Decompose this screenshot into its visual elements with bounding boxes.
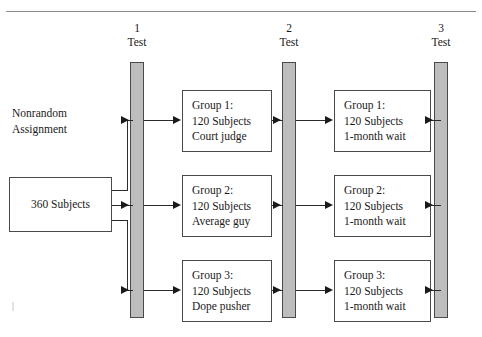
group-box-text: Group 2:120 SubjectsAverage guy (192, 183, 251, 230)
group-line-1: Group 1: (344, 99, 385, 111)
group-line-3: 1-month wait (344, 300, 406, 312)
group-line-1: Group 3: (192, 269, 233, 281)
column-label: Test (107, 36, 167, 50)
link-test2-to-group2 (296, 205, 326, 206)
column-label: Test (411, 36, 471, 50)
group-box-stage1-2: Group 2:120 SubjectsAverage guy (182, 175, 272, 237)
diagram-canvas: 1 Test 2 Test 3 Test Nonrandom Assignmen… (0, 0, 482, 337)
group-line-2: 120 Subjects (344, 285, 403, 297)
branch-riser-top (127, 120, 128, 191)
group-line-2: 120 Subjects (344, 200, 403, 212)
arrow-into-test3-group3 (425, 286, 433, 294)
link-test2-to-group1 (296, 120, 326, 121)
branch-stub-bottom (112, 220, 127, 221)
group-box-text: Group 1:120 Subjects1-month wait (344, 98, 406, 145)
arrow-into-group1-stage1 (173, 116, 181, 124)
group-box-text: Group 1:120 SubjectsCourt judge (192, 98, 251, 145)
arrow-into-test3-group1 (425, 116, 433, 124)
test-bar-3 (434, 62, 448, 318)
group-line-2: 120 Subjects (192, 115, 251, 127)
branch-riser-bottom (127, 220, 128, 291)
group-box-text: Group 3:120 SubjectsDope pusher (192, 268, 251, 315)
group-box-stage2-1: Group 1:120 Subjects1-month wait (334, 90, 431, 152)
arrow-into-group3-stage1 (173, 286, 181, 294)
link-test1-to-group2 (144, 205, 174, 206)
group-line-1: Group 2: (344, 184, 385, 196)
group-line-1: Group 1: (192, 99, 233, 111)
group-line-2: 120 Subjects (192, 200, 251, 212)
arrow-to-test1-group1 (121, 116, 129, 124)
nonrandom-assignment-label: Nonrandom Assignment (12, 106, 67, 137)
group-line-3: Dope pusher (192, 300, 250, 312)
subjects-box-text: 360 Subjects (10, 178, 111, 231)
column-number: 2 (259, 22, 319, 36)
column-header-2: 2 Test (259, 22, 319, 49)
group-line-1: Group 3: (344, 269, 385, 281)
test-bar-1 (130, 62, 144, 318)
top-horizontal-rule (6, 11, 476, 12)
group-line-3: 1-month wait (344, 130, 406, 142)
column-header-3: 3 Test (411, 22, 471, 49)
arrow-into-test2-group1 (273, 116, 281, 124)
arrow-into-test2-group2 (273, 201, 281, 209)
group-line-2: 120 Subjects (192, 285, 251, 297)
link-test1-to-group1 (144, 120, 174, 121)
group-line-3: Court judge (192, 130, 247, 142)
group-line-1: Group 2: (192, 184, 233, 196)
arrow-into-test3-group2 (425, 201, 433, 209)
group-box-stage2-2: Group 2:120 Subjects1-month wait (334, 175, 431, 237)
arrow-to-test1-group2 (121, 201, 129, 209)
arrow-to-test1-group3 (121, 286, 129, 294)
arrow-into-group3-stage2 (325, 286, 333, 294)
column-label: Test (259, 36, 319, 50)
group-line-2: 120 Subjects (344, 115, 403, 127)
arrow-into-group2-stage1 (173, 201, 181, 209)
link-test1-to-group3 (144, 290, 174, 291)
group-box-stage1-1: Group 1:120 SubjectsCourt judge (182, 90, 272, 152)
branch-stub-top (112, 190, 127, 191)
group-box-text: Group 2:120 Subjects1-month wait (344, 183, 406, 230)
link-test2-to-group3 (296, 290, 326, 291)
group-box-text: Group 3:120 Subjects1-month wait (344, 268, 406, 315)
group-line-3: 1-month wait (344, 215, 406, 227)
clipped-text-remnant (8, 0, 238, 5)
column-header-1: 1 Test (107, 22, 167, 49)
scan-artifact-speck (12, 302, 14, 311)
subjects-box: 360 Subjects (9, 177, 112, 232)
arrow-into-group1-stage2 (325, 116, 333, 124)
group-box-stage2-3: Group 3:120 Subjects1-month wait (334, 260, 431, 322)
test-bar-2 (282, 62, 296, 318)
column-number: 3 (411, 22, 471, 36)
group-box-stage1-3: Group 3:120 SubjectsDope pusher (182, 260, 272, 322)
group-line-3: Average guy (192, 215, 250, 227)
column-number: 1 (107, 22, 167, 36)
arrow-into-test2-group3 (273, 286, 281, 294)
arrow-into-group2-stage2 (325, 201, 333, 209)
